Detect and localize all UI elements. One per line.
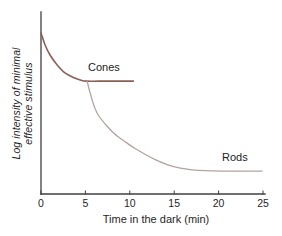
- plot-canvas: [0, 0, 282, 236]
- x-axis-label: Time in the dark (min): [103, 213, 210, 225]
- rods-series-label: Rods: [222, 151, 248, 163]
- cones-series-label: Cones: [88, 61, 120, 73]
- y-axis-label-line2: effective stimulus: [22, 39, 34, 169]
- y-axis-label: Log intensity of minimal effective stimu…: [11, 39, 34, 169]
- dark-adaptation-chart: Log intensity of minimal effective stimu…: [0, 0, 282, 236]
- cones-curve: [41, 33, 133, 81]
- y-axis-label-line1: Log intensity of minimal: [11, 39, 23, 169]
